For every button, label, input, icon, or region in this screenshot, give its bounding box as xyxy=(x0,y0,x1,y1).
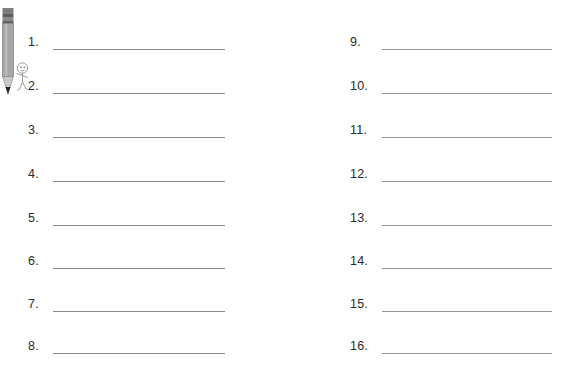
row-number: 15. xyxy=(350,297,382,314)
answer-line[interactable] xyxy=(53,353,225,354)
answer-line[interactable] xyxy=(53,181,225,182)
answer-row[interactable]: 12. xyxy=(350,162,552,184)
answer-line[interactable] xyxy=(382,353,552,354)
row-number: 10. xyxy=(350,79,382,96)
answer-row[interactable]: 15. xyxy=(350,292,552,314)
answer-row[interactable]: 4. xyxy=(28,162,225,184)
row-number: 6. xyxy=(28,254,53,271)
row-number: 13. xyxy=(350,211,382,228)
answer-line[interactable] xyxy=(382,49,552,50)
answer-line[interactable] xyxy=(382,268,552,269)
cartoon-figure xyxy=(17,63,28,90)
pencil-graphite-tip xyxy=(6,87,11,94)
pencil-barrel-highlight xyxy=(5,24,7,77)
answer-line[interactable] xyxy=(382,137,552,138)
answer-line[interactable] xyxy=(53,225,225,226)
pencil-ferrule-band-2 xyxy=(3,21,14,24)
answer-row[interactable]: 5. xyxy=(28,206,225,228)
row-number: 3. xyxy=(28,123,53,140)
pencil-ferrule-band-1 xyxy=(3,14,14,17)
answer-line[interactable] xyxy=(382,93,552,94)
answer-line[interactable] xyxy=(53,268,225,269)
answer-row[interactable]: 14. xyxy=(350,249,552,271)
row-number: 9. xyxy=(350,35,382,52)
answer-row[interactable]: 3. xyxy=(28,118,225,140)
row-number: 4. xyxy=(28,167,53,184)
row-number: 11. xyxy=(350,123,382,140)
row-number: 12. xyxy=(350,167,382,184)
answer-column-left: 1. 2. 3. 4. 5. 6. 7. 8. xyxy=(28,0,238,374)
answer-line[interactable] xyxy=(53,93,225,94)
pencil-ferrule xyxy=(3,17,14,21)
answer-row[interactable]: 9. xyxy=(350,30,552,52)
answer-line[interactable] xyxy=(382,311,552,312)
answer-row[interactable]: 13. xyxy=(350,206,552,228)
answer-line[interactable] xyxy=(382,181,552,182)
answer-row[interactable]: 11. xyxy=(350,118,552,140)
row-number: 2. xyxy=(28,79,53,96)
answer-row[interactable]: 8. xyxy=(28,334,225,356)
pencil-eraser xyxy=(3,8,14,14)
answer-line[interactable] xyxy=(382,225,552,226)
answer-row[interactable]: 6. xyxy=(28,249,225,271)
row-number: 16. xyxy=(350,339,382,356)
answer-row[interactable]: 10. xyxy=(350,74,552,96)
row-number: 8. xyxy=(28,339,53,356)
answer-row[interactable]: 16. xyxy=(350,334,552,356)
row-number: 1. xyxy=(28,35,53,52)
worksheet-page: 1. 2. 3. 4. 5. 6. 7. 8. xyxy=(0,0,572,374)
answer-column-right: 9. 10. 11. 12. 13. 14. 15. 16. xyxy=(350,0,555,374)
answer-row[interactable]: 7. xyxy=(28,292,225,314)
answer-row[interactable]: 2. xyxy=(28,74,225,96)
answer-line[interactable] xyxy=(53,49,225,50)
row-number: 7. xyxy=(28,297,53,314)
answer-line[interactable] xyxy=(53,311,225,312)
pencil-barrel xyxy=(3,24,14,77)
row-number: 14. xyxy=(350,254,382,271)
answer-row[interactable]: 1. xyxy=(28,30,225,52)
answer-line[interactable] xyxy=(53,137,225,138)
row-number: 5. xyxy=(28,211,53,228)
